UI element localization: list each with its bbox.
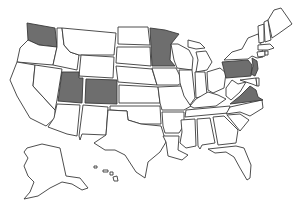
state-shape[interactable]: Maine [268, 8, 292, 38]
state-iowa[interactable]: Iowa [152, 68, 183, 85]
state-massachusetts[interactable]: Massachusetts [258, 44, 274, 50]
us-map: WashingtonOregonCaliforniaNevadaIdahoMon… [0, 0, 301, 207]
state-shape[interactable]: Delaware [256, 78, 259, 86]
state-north-dakota[interactable]: North Dakota [118, 27, 150, 45]
state-shape[interactable]: Iowa [152, 68, 183, 85]
state-shape[interactable]: Hawaii [113, 176, 118, 181]
state-alaska[interactable]: Alaska [24, 144, 88, 199]
state-shape[interactable]: Pennsylvania [222, 60, 252, 78]
state-arkansas[interactable]: Arkansas [162, 112, 184, 133]
state-florida[interactable]: Florida [208, 146, 251, 180]
state-shape[interactable]: Wyoming [79, 55, 114, 78]
state-kansas[interactable]: Kansas [119, 85, 160, 103]
state-shape[interactable]: Michigan [188, 40, 205, 49]
state-hawaii[interactable]: HawaiiHawaiiHawaiiHawaii [94, 166, 118, 181]
state-shape[interactable]: Michigan [196, 51, 212, 72]
state-utah[interactable]: Utah [58, 72, 83, 103]
state-maine[interactable]: Maine [268, 8, 292, 38]
state-shape[interactable]: Montana [62, 28, 116, 55]
state-kentucky[interactable]: Kentucky [190, 92, 226, 108]
state-south-dakota[interactable]: South Dakota [116, 47, 151, 66]
state-shape[interactable]: Florida [208, 146, 251, 180]
state-shape[interactable]: Ohio [207, 68, 226, 93]
state-shape[interactable]: Tennessee [185, 106, 230, 117]
state-wyoming[interactable]: Wyoming [79, 55, 114, 78]
state-vermont[interactable]: Vermont [258, 24, 264, 43]
state-shape[interactable]: Colorado [85, 79, 117, 104]
state-connecticut[interactable]: Connecticut [257, 51, 265, 57]
state-shape[interactable]: Vermont [258, 24, 264, 43]
state-shape[interactable]: Utah [58, 72, 83, 103]
state-shape[interactable]: Connecticut [257, 51, 265, 57]
state-new-mexico[interactable]: New Mexico [79, 105, 108, 140]
state-tennessee[interactable]: Tennessee [185, 106, 230, 117]
state-shape[interactable]: Hawaii [103, 170, 108, 172]
state-montana[interactable]: Montana [62, 28, 116, 55]
state-shape[interactable]: Alaska [24, 144, 88, 199]
state-colorado[interactable]: Colorado [85, 79, 117, 104]
state-shape[interactable]: Arkansas [162, 112, 184, 133]
state-nebraska[interactable]: Nebraska [116, 66, 157, 85]
state-shape[interactable]: New Mexico [79, 105, 108, 140]
state-shape[interactable]: Hawaii [94, 166, 97, 168]
state-mississippi[interactable]: Mississippi [180, 119, 196, 148]
state-shape[interactable]: Alabama [197, 118, 215, 149]
state-shape[interactable]: Kentucky [190, 92, 226, 108]
state-shape[interactable]: North Dakota [118, 27, 150, 45]
state-alabama[interactable]: Alabama [197, 118, 215, 149]
state-shape[interactable]: New York [224, 34, 263, 60]
state-delaware[interactable]: Delaware [256, 78, 259, 86]
state-ohio[interactable]: Ohio [207, 68, 226, 93]
state-shape[interactable]: Hawaii [110, 172, 113, 175]
state-shape[interactable]: Nebraska [116, 66, 157, 85]
state-shape[interactable]: Rhode Island [265, 51, 268, 55]
state-new-york[interactable]: New York [224, 34, 263, 60]
state-shape[interactable]: Mississippi [180, 119, 196, 148]
state-shape[interactable]: South Dakota [116, 47, 151, 66]
state-shape[interactable]: Kansas [119, 85, 160, 103]
state-rhode-island[interactable]: Rhode Island [265, 51, 268, 55]
state-pennsylvania[interactable]: Pennsylvania [222, 60, 252, 78]
state-shape[interactable]: Massachusetts [258, 44, 274, 50]
